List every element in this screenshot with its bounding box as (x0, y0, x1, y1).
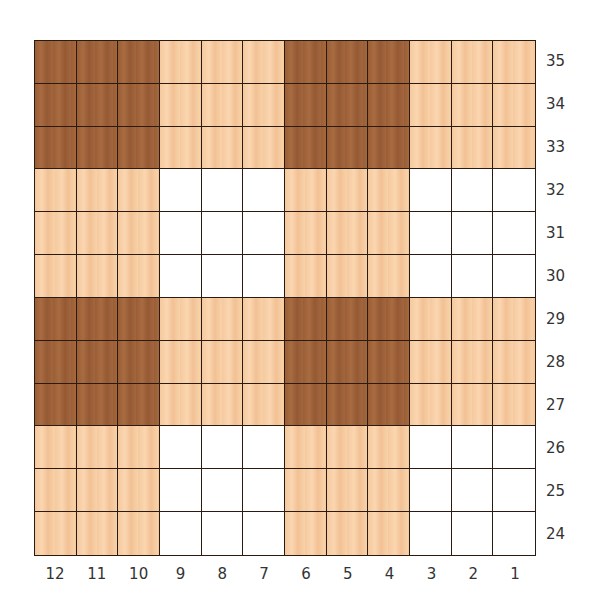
chart-cell (118, 84, 160, 127)
chart-cell (118, 169, 160, 212)
chart-cell (368, 384, 410, 427)
chart-cell (368, 512, 410, 555)
chart-cell (452, 41, 494, 84)
chart-cell (243, 41, 285, 84)
knitting-chart-grid (34, 40, 536, 556)
chart-cell (243, 212, 285, 255)
column-label: 4 (369, 565, 411, 583)
chart-cell (368, 426, 410, 469)
column-label: 2 (452, 565, 494, 583)
chart-cell (452, 127, 494, 170)
chart-cell (452, 512, 494, 555)
chart-cell (410, 469, 452, 512)
chart-cell (35, 341, 77, 384)
chart-cell (243, 255, 285, 298)
chart-cell (327, 341, 369, 384)
row-label: 33 (546, 138, 565, 156)
chart-cell (160, 127, 202, 170)
chart-cell (327, 41, 369, 84)
chart-cell (243, 384, 285, 427)
chart-cell (77, 255, 119, 298)
chart-cell (327, 469, 369, 512)
chart-cell (202, 255, 244, 298)
chart-cell (35, 384, 77, 427)
row-label: 35 (546, 52, 565, 70)
chart-cell (285, 341, 327, 384)
chart-cell (243, 127, 285, 170)
chart-cell (327, 384, 369, 427)
chart-cell (410, 212, 452, 255)
chart-cell (452, 426, 494, 469)
chart-cell (160, 41, 202, 84)
row-label: 28 (546, 353, 565, 371)
chart-cell (327, 127, 369, 170)
chart-cell (160, 212, 202, 255)
column-label: 8 (201, 565, 243, 583)
chart-cell (368, 212, 410, 255)
chart-cell (160, 298, 202, 341)
chart-cell (493, 298, 535, 341)
chart-cell (493, 84, 535, 127)
column-label: 12 (34, 565, 76, 583)
row-label: 34 (546, 95, 565, 113)
chart-cell (118, 341, 160, 384)
chart-cell (452, 384, 494, 427)
chart-cell (35, 426, 77, 469)
chart-cell (368, 469, 410, 512)
chart-cell (118, 127, 160, 170)
chart-cell (410, 255, 452, 298)
chart-cell (327, 298, 369, 341)
chart-cell (77, 426, 119, 469)
row-label: 31 (546, 224, 565, 242)
chart-cell (493, 169, 535, 212)
chart-cell (452, 169, 494, 212)
chart-cell (243, 169, 285, 212)
chart-cell (410, 169, 452, 212)
chart-cell (493, 469, 535, 512)
chart-cell (202, 169, 244, 212)
chart-cell (77, 169, 119, 212)
chart-cell (410, 426, 452, 469)
column-label: 7 (243, 565, 285, 583)
chart-cell (118, 512, 160, 555)
chart-cell (493, 426, 535, 469)
chart-cell (77, 127, 119, 170)
chart-cell (410, 341, 452, 384)
chart-cell (118, 41, 160, 84)
chart-cell (202, 512, 244, 555)
chart-cell (452, 84, 494, 127)
column-label: 10 (118, 565, 160, 583)
chart-cell (327, 84, 369, 127)
chart-cell (35, 512, 77, 555)
chart-cell (202, 469, 244, 512)
chart-cell (410, 512, 452, 555)
chart-cell (285, 512, 327, 555)
chart-cell (77, 469, 119, 512)
chart-cell (118, 212, 160, 255)
chart-cell (77, 341, 119, 384)
chart-cell (410, 41, 452, 84)
chart-cell (35, 127, 77, 170)
chart-cell (243, 512, 285, 555)
chart-cell (160, 512, 202, 555)
chart-cell (243, 426, 285, 469)
column-label: 6 (285, 565, 327, 583)
row-label: 29 (546, 310, 565, 328)
chart-cell (493, 127, 535, 170)
chart-cell (202, 127, 244, 170)
column-label: 11 (76, 565, 118, 583)
chart-cell (452, 212, 494, 255)
chart-cell (410, 127, 452, 170)
chart-cell (243, 298, 285, 341)
chart-cell (243, 341, 285, 384)
chart-cell (368, 341, 410, 384)
chart-cell (493, 384, 535, 427)
chart-cell (285, 41, 327, 84)
chart-cell (493, 512, 535, 555)
chart-cell (35, 169, 77, 212)
chart-cell (35, 255, 77, 298)
chart-cell (77, 298, 119, 341)
chart-cell (77, 41, 119, 84)
chart-cell (202, 426, 244, 469)
chart-cell (77, 384, 119, 427)
